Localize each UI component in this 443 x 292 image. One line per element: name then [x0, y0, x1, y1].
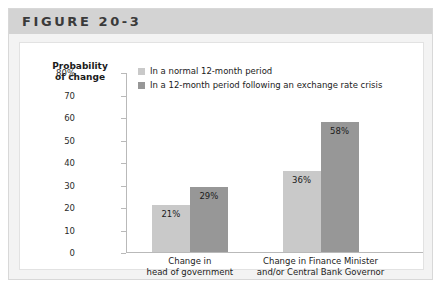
bar-group: 36%58% [283, 72, 359, 252]
bar-value-label: 36% [283, 175, 321, 185]
y-axis-tick-label: 30 [64, 181, 75, 191]
y-axis-tick-label: 60 [64, 113, 75, 123]
y-axis-title: Probability of change [42, 61, 118, 83]
y-axis-tick-label: 20 [64, 203, 75, 213]
y-axis-tick-label: 70 [64, 91, 75, 101]
y-axis-tick-label: 80% [56, 68, 75, 78]
x-axis-label: Change in Finance Ministerand/or Central… [241, 256, 401, 278]
y-axis-tick-label: 40 [64, 158, 75, 168]
y-axis-tick-label: 0 [70, 248, 75, 258]
chart-plot-area: Probability of change In a normal 12-mon… [20, 43, 423, 269]
x-axis-label-line: and/or Central Bank Governor [241, 267, 401, 278]
y-axis-tick-label: 50 [64, 136, 75, 146]
bar: 36% [283, 171, 321, 252]
x-axis-label-line: Change in Finance Minister [241, 256, 401, 267]
figure-frame: FIGURE 20-3 Probability of change In a n… [8, 8, 433, 280]
bar-value-label: 58% [321, 126, 359, 136]
bar-value-label: 29% [190, 191, 228, 201]
y-axis-tick-label: 10 [64, 226, 75, 236]
x-axis-line [126, 252, 423, 253]
bar: 29% [190, 187, 228, 252]
bar-value-label: 21% [152, 209, 190, 219]
y-axis-title-line-1: Probability [42, 61, 118, 72]
bar-group: 21%29% [152, 72, 228, 252]
chart-card: Probability of change In a normal 12-mon… [19, 42, 424, 270]
y-axis-tick [121, 253, 126, 254]
bar-groups: 21%29%36%58% [126, 72, 423, 252]
figure-title: FIGURE 20-3 [22, 14, 142, 29]
y-axis-title-line-2: of change [42, 72, 118, 83]
figure-header-band: FIGURE 20-3 [9, 9, 432, 34]
bar: 21% [152, 205, 190, 252]
bar: 58% [321, 122, 359, 253]
